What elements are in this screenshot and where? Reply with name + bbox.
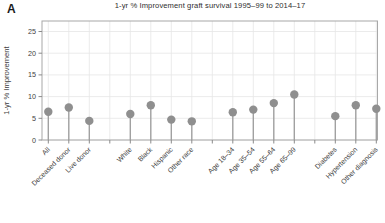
data-dot (188, 117, 196, 125)
y-tick-label: 20 (28, 49, 36, 58)
y-tick-label: 25 (28, 27, 36, 36)
y-tick-label: 0 (32, 136, 36, 145)
x-category-label: White (115, 146, 133, 164)
data-dot (229, 108, 237, 116)
data-dot (147, 101, 155, 109)
lollipop-chart: 0510152025AllDeceased donorLive donorWhi… (0, 0, 385, 223)
data-dot (352, 101, 360, 109)
data-dot (331, 112, 339, 120)
data-dot (249, 105, 257, 113)
y-axis-label: 1-yr % Improvement (2, 45, 11, 114)
data-dot (290, 90, 298, 98)
y-tick-label: 15 (28, 70, 36, 79)
data-dot (126, 110, 134, 118)
x-category-label: Other diagnosis (339, 145, 380, 186)
data-dot (372, 105, 380, 113)
data-dot (44, 108, 52, 116)
data-dot (85, 117, 93, 125)
x-category-label: Black (136, 145, 153, 162)
data-dot (65, 103, 73, 111)
figure-panel-a: A 1-yr % Improvement graft survival 1995… (0, 0, 385, 223)
data-dot (270, 99, 278, 107)
data-dot (167, 115, 175, 123)
y-tick-label: 5 (32, 114, 36, 123)
y-tick-label: 10 (28, 92, 36, 101)
x-category-label: All (41, 145, 52, 156)
